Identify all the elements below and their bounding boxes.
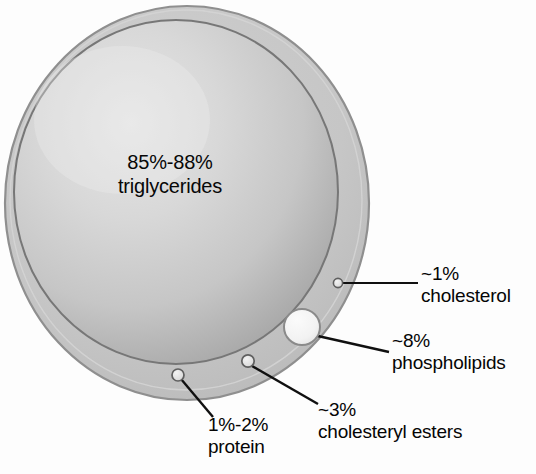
leader-line-phospholipids (309, 334, 389, 352)
callout-percent-phospholipids: ~8% (392, 330, 506, 352)
callout-label-protein: 1%-2% protein (208, 414, 268, 459)
cholesterol-marker-icon (333, 278, 342, 287)
callout-label-phospholipids: ~8% phospholipids (392, 330, 506, 375)
core-percent: 85%-88% (70, 150, 270, 174)
cholesteryl-esters-marker-icon (242, 355, 254, 367)
callout-label-cholesteryl-esters: ~3% cholesteryl esters (318, 399, 462, 444)
callout-name-cholesterol: cholesterol (421, 285, 511, 307)
core-name: triglycerides (70, 174, 270, 198)
leader-line-cholesteryl-esters (252, 366, 318, 404)
callout-label-cholesterol: ~1% cholesterol (421, 263, 511, 308)
protein-marker-icon (172, 369, 184, 381)
core-composition-label: 85%-88% triglycerides (70, 150, 270, 198)
callout-percent-cholesteryl-esters: ~3% (318, 399, 462, 421)
phospholipids-marker-icon (284, 309, 320, 345)
callout-percent-cholesterol: ~1% (421, 263, 511, 285)
callout-name-phospholipids: phospholipids (392, 352, 506, 374)
callout-name-protein: protein (208, 436, 268, 458)
callout-percent-protein: 1%-2% (208, 414, 268, 436)
callout-name-cholesteryl-esters: cholesteryl esters (318, 421, 462, 443)
lipoprotein-diagram: 85%-88% triglycerides ~1% cholesterol ~8… (0, 0, 536, 474)
